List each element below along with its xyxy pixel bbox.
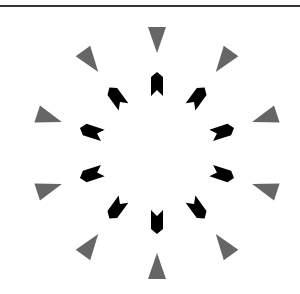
gray-triangle-icon [148,253,166,279]
gray-triangle-icon [76,229,106,261]
black-chevron-icon [186,84,210,110]
black-chevron-icon [151,210,163,234]
gray-triangle-icon [249,175,279,200]
black-chevron-icon [151,72,163,96]
gray-triangle-icon [76,46,106,78]
gray-triangle-icon [34,106,64,131]
gray-triangle-icon [34,175,64,200]
black-chevron-icon [78,165,105,184]
black-chevron-icon [78,122,105,141]
black-chevron-icon [105,196,129,222]
gray-triangle-icon [249,106,279,131]
gray-triangle-icon [208,46,238,78]
gray-triangle-icon [208,229,238,261]
black-chevron-icon [186,196,210,222]
black-chevron-icon [209,122,236,141]
radial-arrow-diagram [0,0,300,294]
black-chevron-icon [105,84,129,110]
gray-triangle-icon [148,27,166,53]
black-chevron-icon [209,165,236,184]
